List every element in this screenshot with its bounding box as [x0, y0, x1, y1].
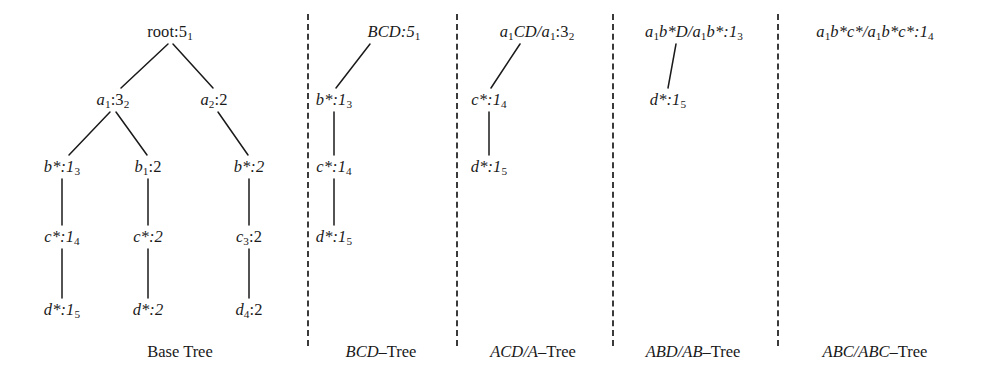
node-bcd-c: c*:14 — [316, 159, 351, 176]
node-c-star-1-label: c*:1 — [44, 227, 74, 246]
panel-separator-1 — [307, 14, 309, 346]
edge-a1-b1 — [116, 112, 147, 155]
edge-bcd-root-b — [336, 44, 370, 88]
node-acd-d-label: d*:1 — [471, 157, 502, 176]
node-abd-root-tail-subscript: 3 — [737, 30, 743, 42]
caption-acd-a-tree-name: ACD/A — [490, 342, 538, 361]
node-acd-d: d*:15 — [471, 159, 507, 176]
caption-acd-a-tree-suffix: –Tree — [538, 342, 576, 361]
node-bcd-d: d*:15 — [316, 229, 352, 246]
node-d-star-1: d*:15 — [44, 302, 80, 319]
caption-abc-abc-tree-name: ABC/ABC — [823, 342, 890, 361]
panel-separator-3 — [612, 14, 614, 346]
node-b-star-right-label: b*:2 — [234, 157, 265, 176]
node-abd-d: d*:15 — [650, 92, 686, 109]
node-abd-d-label: d*:1 — [650, 90, 681, 109]
figure-canvas: root:51 a1:32 a2:2 b*:13 b1:2 b*:2 c*:14… — [0, 0, 987, 382]
node-d-star-2-label: d*:2 — [133, 300, 164, 319]
node-acd-c-label: c*:1 — [471, 90, 501, 109]
node-acd-root-count: :3 — [556, 22, 569, 41]
node-a1: a1:32 — [97, 92, 130, 109]
node-a1-count: :3 — [111, 90, 124, 109]
edge-acd-root-c — [491, 44, 520, 88]
node-abc-root-mid: b*c*/a — [830, 22, 876, 41]
node-bcd-d-subscript: 5 — [346, 235, 352, 247]
node-bcd-c-label: c*:1 — [316, 157, 346, 176]
node-b1-count: :2 — [149, 157, 162, 176]
caption-abc-abc-tree-suffix: –Tree — [890, 342, 928, 361]
panel-separator-2 — [456, 14, 458, 346]
edge-a2-bstar — [218, 112, 248, 155]
node-d4-count: :2 — [250, 300, 263, 319]
node-bcd-d-label: d*:1 — [316, 227, 347, 246]
node-acd-d-subscript: 5 — [501, 165, 507, 177]
node-abc-root: a1b*c*/a1b*c*:14 — [816, 24, 933, 41]
caption-abc-abc-tree: ABC/ABC–Tree — [823, 344, 928, 361]
node-b-star-left-subscript: 3 — [74, 165, 80, 177]
node-root-subscript: 1 — [187, 30, 193, 42]
node-abc-root-tail: b*c*:1 — [882, 22, 928, 41]
node-b-star-right: b*:2 — [234, 159, 265, 176]
node-d-star-1-subscript: 5 — [74, 308, 80, 320]
node-bcd-root-subscript: 1 — [415, 30, 421, 42]
node-a1-count-subscript: 2 — [124, 98, 130, 110]
edge-a1-bstar — [69, 112, 110, 155]
caption-bcd-tree: BCD–Tree — [346, 344, 417, 361]
node-bcd-b-subscript: 3 — [346, 98, 352, 110]
node-a2-count: :2 — [215, 90, 228, 109]
node-abd-root: a1b*D/a1b*:13 — [645, 24, 743, 41]
node-d-star-2: d*:2 — [133, 302, 164, 319]
node-bcd-root-label: BCD:5 — [368, 22, 415, 41]
caption-abd-ab-tree-suffix: –Tree — [702, 342, 740, 361]
tree-edges-layer — [0, 0, 987, 382]
node-c-star-2-label: c*:2 — [133, 227, 163, 246]
node-bcd-b-label: b*:1 — [316, 90, 347, 109]
edge-root-a2 — [173, 44, 213, 88]
node-c3-count: :2 — [249, 227, 262, 246]
node-c3: c3:2 — [236, 229, 262, 246]
node-acd-root-count-subscript: 2 — [569, 30, 575, 42]
node-b-star-left-label: b*:1 — [44, 157, 75, 176]
edge-abd-root-d — [668, 44, 676, 88]
caption-abd-ab-tree-name: ABD/AB — [646, 342, 703, 361]
node-abd-d-subscript: 5 — [680, 98, 686, 110]
node-bcd-c-subscript: 4 — [346, 165, 352, 177]
node-c-star-1: c*:14 — [44, 229, 79, 246]
node-abd-root-mid: b*D/a — [659, 22, 701, 41]
node-b-star-left: b*:13 — [44, 159, 80, 176]
caption-base-tree: Base Tree — [147, 344, 213, 361]
node-root: root:51 — [147, 24, 193, 41]
node-d4: d4:2 — [235, 302, 262, 319]
node-abc-root-tail-subscript: 4 — [928, 30, 934, 42]
node-acd-c: c*:14 — [471, 92, 506, 109]
node-b1: b1:2 — [134, 159, 161, 176]
node-bcd-b: b*:13 — [316, 92, 352, 109]
node-root-label: root:5 — [147, 22, 187, 41]
caption-acd-a-tree: ACD/A–Tree — [490, 344, 576, 361]
node-c-star-2: c*:2 — [133, 229, 163, 246]
node-bcd-root: BCD:51 — [368, 24, 421, 41]
node-d-star-1-label: d*:1 — [44, 300, 75, 319]
edge-root-a1 — [121, 44, 168, 88]
caption-bcd-tree-name: BCD — [346, 342, 379, 361]
caption-base-tree-text: Base Tree — [147, 342, 213, 361]
panel-separator-4 — [777, 14, 779, 346]
node-c-star-1-subscript: 4 — [74, 235, 80, 247]
node-abd-root-tail: b*:1 — [707, 22, 738, 41]
node-acd-root: a1CD/a1:32 — [500, 24, 575, 41]
node-a2: a2:2 — [200, 92, 227, 109]
node-acd-c-subscript: 4 — [501, 98, 507, 110]
caption-bcd-tree-suffix: –Tree — [379, 342, 417, 361]
node-acd-root-mid: CD/a — [514, 22, 550, 41]
caption-abd-ab-tree: ABD/AB–Tree — [646, 344, 741, 361]
